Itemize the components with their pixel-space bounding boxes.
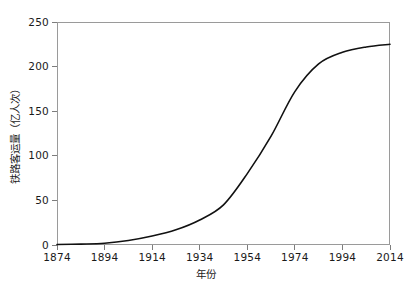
y-tick-label: 100 — [28, 150, 49, 161]
y-axis-title-text: 铁路客运量（亿人次） — [10, 84, 21, 184]
x-tick-mark — [390, 245, 391, 250]
x-tick-mark — [57, 245, 58, 250]
data-curve — [57, 22, 390, 245]
x-tick-label: 2014 — [368, 252, 412, 263]
y-axis-title: 铁路客运量（亿人次） — [8, 22, 22, 245]
y-tick-label: 200 — [28, 61, 49, 72]
x-tick-mark — [247, 245, 248, 250]
x-tick-label: 1954 — [225, 252, 269, 263]
x-tick-mark — [294, 245, 295, 250]
x-tick-label: 1894 — [83, 252, 127, 263]
y-tick-label: 50 — [35, 195, 49, 206]
y-tick-label: 150 — [28, 106, 49, 117]
y-tick-label: 0 — [42, 240, 49, 251]
x-tick-label: 1874 — [35, 252, 79, 263]
x-tick-mark — [342, 245, 343, 250]
x-tick-mark — [152, 245, 153, 250]
x-axis-title: 年份 — [0, 269, 412, 280]
series-line-railway-passenger-volume — [57, 44, 390, 244]
x-tick-mark — [104, 245, 105, 250]
x-tick-mark — [199, 245, 200, 250]
y-tick-label: 250 — [28, 17, 49, 28]
x-tick-label: 1914 — [130, 252, 174, 263]
x-tick-label: 1934 — [178, 252, 222, 263]
chart-figure: 050100150200250 187418941914193419541974… — [0, 0, 412, 296]
x-tick-label: 1994 — [320, 252, 364, 263]
x-tick-label: 1974 — [273, 252, 317, 263]
